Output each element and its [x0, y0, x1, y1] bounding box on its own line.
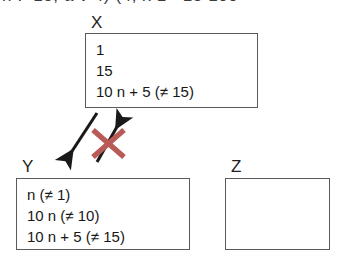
- set-item: 10 n (≠ 10): [27, 205, 190, 226]
- set-contents-y: n (≠ 1) 10 n (≠ 10) 10 n + 5 (≠ 15): [16, 180, 190, 247]
- cropped-top-text: n !=15; a v 4) (4, x 1= 15 100: [0, 0, 344, 11]
- set-item: 10 n + 5 (≠ 15): [27, 226, 190, 247]
- set-item: 15: [96, 60, 258, 81]
- set-label-y: Y: [22, 158, 33, 175]
- set-label-x: X: [91, 14, 102, 31]
- set-label-z: Z: [231, 158, 241, 175]
- cropped-top-text-content: n !=15; a v 4) (4, x 1= 15 100: [2, 0, 238, 6]
- set-item: n (≠ 1): [27, 184, 190, 205]
- arrow-down-left: [71, 113, 98, 154]
- arrow-up-right: [97, 125, 118, 162]
- diagram-canvas: n !=15; a v 4) (4, x 1= 15 100 X 1 15 10…: [0, 0, 344, 260]
- red-cross-mark: [93, 130, 124, 157]
- set-contents-x: 1 15 10 n + 5 (≠ 15): [85, 35, 258, 102]
- set-item: 10 n + 5 (≠ 15): [96, 81, 258, 102]
- set-box-z: [225, 178, 330, 250]
- set-item: 1: [96, 39, 258, 60]
